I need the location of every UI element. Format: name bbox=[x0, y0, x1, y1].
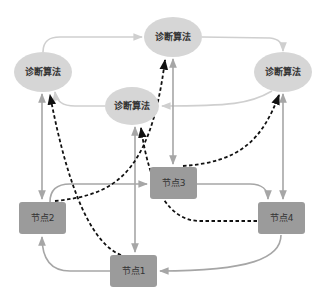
edge-node4-to-node1 bbox=[160, 235, 281, 271]
network-diagram: 诊断算法 诊断算法 诊断算法 诊断算法 节点1 节点2 节点3 节点4 bbox=[0, 0, 325, 301]
ellipse-label: 诊断算法 bbox=[114, 100, 150, 111]
ellipse-algo-right[interactable]: 诊断算法 bbox=[254, 52, 312, 92]
edge-algo-top-to-right bbox=[202, 37, 283, 51]
node-box-1[interactable]: 节点1 bbox=[110, 255, 157, 287]
dashed-edges bbox=[50, 60, 279, 255]
node-box-4[interactable]: 节点4 bbox=[258, 202, 305, 234]
node-label: 节点3 bbox=[162, 178, 186, 188]
node-label: 节点4 bbox=[270, 213, 294, 223]
edge-node3-to-node4 bbox=[197, 184, 268, 199]
ellipse-label: 诊断算法 bbox=[265, 66, 301, 77]
ellipse-algo-left[interactable]: 诊断算法 bbox=[14, 52, 72, 92]
edge-node1-to-node2 bbox=[42, 237, 110, 271]
ellipse-label: 诊断算法 bbox=[155, 31, 191, 42]
node-box-3[interactable]: 节点3 bbox=[150, 167, 197, 199]
node-label: 节点1 bbox=[122, 266, 146, 276]
edge-algo-left-to-top bbox=[43, 37, 142, 52]
node-box-2[interactable]: 节点2 bbox=[19, 202, 66, 234]
ellipse-algo-middle[interactable]: 诊断算法 bbox=[105, 87, 159, 125]
ellipse-label: 诊断算法 bbox=[25, 66, 61, 77]
edge-algo-right-to-middle bbox=[162, 91, 272, 106]
node-label: 节点2 bbox=[31, 213, 55, 223]
edge-node2-to-node3 bbox=[50, 184, 147, 202]
ellipse-algo-top[interactable]: 诊断算法 bbox=[144, 17, 202, 57]
diagram-canvas: 诊断算法 诊断算法 诊断算法 诊断算法 节点1 节点2 节点3 节点4 bbox=[0, 0, 325, 301]
edge-algo-middle-to-left bbox=[55, 92, 105, 106]
vertical-edges bbox=[42, 59, 283, 252]
